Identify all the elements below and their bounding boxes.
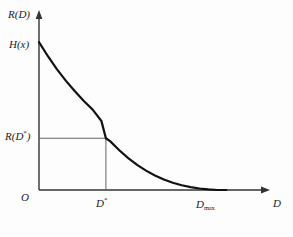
- dstar-star: *: [104, 196, 108, 204]
- rate-distortion-figure: R(D) H(x) R(D*) O D* Dmax D: [0, 0, 293, 237]
- x-axis-tick-label-dmax: Dmax: [196, 199, 215, 210]
- rdstar-prefix: R(D: [5, 130, 23, 142]
- y-axis-label: R(D): [8, 9, 30, 20]
- rdstar-suffix: ): [27, 130, 31, 142]
- curve-start-label-hx: H(x): [9, 39, 29, 50]
- y-axis-tick-label-rate-at-dstar: R(D*): [5, 131, 31, 142]
- x-axis-tick-label-dstar: D*: [96, 198, 107, 209]
- x-axis-label: D: [273, 198, 281, 209]
- dmax-base: D: [196, 198, 204, 210]
- dstar-base: D: [96, 197, 104, 209]
- rate-distortion-curve: [39, 42, 226, 190]
- origin-label: O: [21, 192, 29, 203]
- x-axis-arrowhead-icon: [261, 187, 270, 194]
- dmax-subscript: max: [204, 204, 215, 211]
- plot-canvas: [0, 0, 293, 237]
- y-axis-arrowhead-icon: [36, 10, 43, 19]
